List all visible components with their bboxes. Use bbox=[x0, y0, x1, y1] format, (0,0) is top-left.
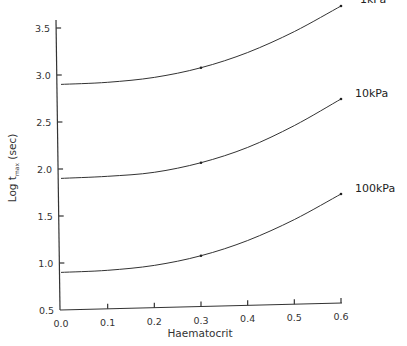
x-tick-label: 0.6 bbox=[333, 311, 348, 322]
data-point-marker bbox=[200, 254, 203, 257]
series-label-1kPa: 1kPa bbox=[360, 0, 386, 6]
data-point-marker bbox=[340, 98, 343, 101]
data-point-marker bbox=[200, 161, 203, 164]
axes bbox=[56, 20, 342, 310]
x-axis-title: Haematocrit bbox=[167, 327, 232, 339]
x-tick-label: 0.4 bbox=[240, 313, 255, 324]
y-axis-title: Log tmax (sec) bbox=[6, 134, 20, 203]
curve-1kPa bbox=[61, 6, 341, 84]
data-point-marker bbox=[340, 5, 343, 8]
series-label-10kPa: 10kPa bbox=[355, 87, 388, 100]
x-axis-ticks: 0.00.10.20.30.40.50.6 bbox=[53, 298, 348, 329]
series-label-100kPa: 100kPa bbox=[355, 182, 395, 195]
y-tick-label: 2.5 bbox=[36, 117, 51, 128]
haematocrit-chart: 0.51.01.52.02.53.03.5 0.00.10.20.30.40.5… bbox=[0, 0, 407, 346]
y-axis-line bbox=[56, 20, 60, 310]
series-curves bbox=[61, 5, 342, 273]
x-tick-label: 0.3 bbox=[193, 315, 208, 326]
y-axis-title-text: Log tmax (sec) bbox=[6, 134, 20, 203]
y-tick-label: 1.0 bbox=[38, 258, 53, 269]
x-tick-label: 0.1 bbox=[100, 317, 115, 328]
y-tick-label: 0.5 bbox=[39, 305, 54, 316]
x-tick-label: 0.0 bbox=[53, 318, 68, 329]
data-point-marker bbox=[340, 193, 343, 196]
y-tick-label: 1.5 bbox=[38, 211, 53, 222]
x-tick-label: 0.2 bbox=[147, 316, 162, 327]
curve-10kPa bbox=[61, 99, 341, 178]
series-labels: 1kPa10kPa100kPa bbox=[355, 0, 395, 195]
data-point-marker bbox=[200, 66, 203, 69]
y-tick-label: 2.0 bbox=[37, 164, 52, 175]
y-tick-label: 3.5 bbox=[35, 23, 50, 34]
curve-100kPa bbox=[61, 194, 341, 272]
y-tick-label: 3.0 bbox=[36, 70, 51, 81]
x-tick-label: 0.5 bbox=[287, 312, 302, 323]
